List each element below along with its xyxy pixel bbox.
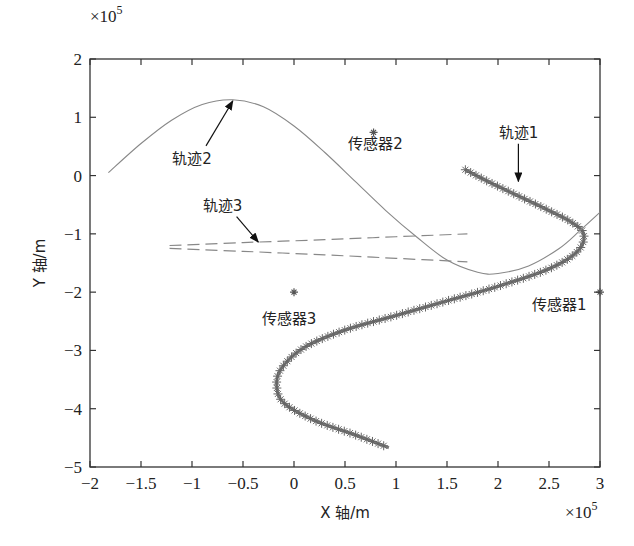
star-marker [409,306,418,315]
star-marker [473,288,482,297]
x-tick-label: 0 [290,474,299,493]
y-tick-label: −5 [64,458,82,477]
x-tick-label: 0.5 [334,474,355,493]
x-tick-label: 3 [596,474,605,493]
annotation-label: 传感器2 [348,135,403,153]
annotation-label: 轨迹1 [499,124,539,142]
x-tick-label: 1.5 [436,474,457,493]
annotation-layer: 轨迹1轨迹2轨迹3传感器1传感器2传感器3 [172,101,586,328]
star-marker [433,299,442,308]
star-marker [427,301,436,310]
star-marker [456,293,465,302]
star-marker [513,276,522,285]
x-axis-title: X 轴/m [320,504,370,522]
star-marker [502,279,511,288]
annotation-arrow-icon [206,101,233,146]
chart-canvas: 轨迹1轨迹2轨迹3传感器1传感器2传感器3 −2−1.5−1−0.500.511… [0,0,634,546]
x-tick-label: −2 [81,474,99,493]
x-tick-label: −1 [183,474,201,493]
plot-area [90,59,600,467]
star-marker [496,281,505,290]
star-marker [485,285,494,294]
y-tick-label: −4 [64,400,83,419]
star-marker [352,322,361,331]
star-marker [444,296,453,305]
star-marker [392,311,401,320]
y-exponent-label: ×105 [90,3,123,26]
star-marker [398,309,407,318]
star-marker [357,320,366,329]
annotation-label: 轨迹2 [172,150,212,168]
star-marker [375,316,384,325]
y-axis-title: Y 轴/m [31,239,49,289]
y-tick-label: 0 [74,167,83,186]
track3-line [170,248,468,261]
star-marker [386,312,395,321]
plot-frame [90,59,600,467]
star-marker [461,291,470,300]
annotation-label: 传感器1 [532,296,587,314]
annotation-label: 轨迹3 [203,197,243,215]
track3-line [170,234,468,246]
annotation-arrow-icon [237,217,259,242]
x-tick-label: 2 [494,474,503,493]
x-tick-label: −0.5 [228,474,259,493]
star-marker [404,307,413,316]
star-marker [379,441,388,450]
star-marker [479,286,488,295]
y-tick-label: −3 [64,341,82,360]
x-tick-label: 2.5 [538,474,559,493]
x-exponent-label: ×105 [565,499,598,522]
star-marker [490,283,499,292]
y-tick-label: 1 [74,108,83,127]
star-marker [363,319,372,328]
star-marker [438,298,447,307]
y-tick-label: −2 [64,283,82,302]
y-tick-label: 2 [74,50,83,69]
star-marker [381,314,390,323]
star-marker [415,304,424,313]
star-marker [421,303,430,312]
star-marker [507,277,516,286]
y-tick-label: −1 [64,225,82,244]
x-tick-label: −1.5 [126,474,157,493]
star-marker [450,294,459,303]
sensor-marker-icon [290,288,298,296]
star-marker [369,317,378,326]
star-marker [467,290,476,299]
x-tick-label: 1 [392,474,401,493]
annotation-label: 传感器3 [262,310,317,328]
